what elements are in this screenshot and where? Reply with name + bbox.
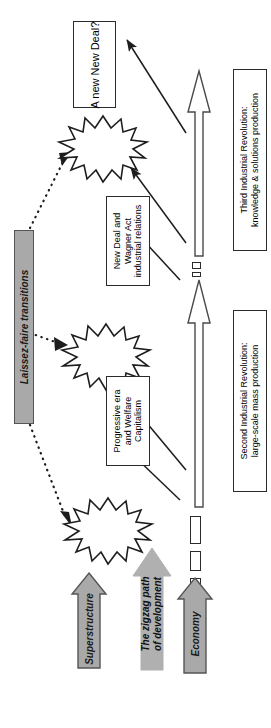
- burst-top-icon: [57, 110, 149, 188]
- hollow-arrow-upper-icon: [186, 68, 212, 258]
- shape-economy-label: Economy: [190, 611, 201, 656]
- box-new-deal-wagner-act-label: New Deal and Wagner Act industrial relat…: [112, 205, 144, 278]
- line-1: Second Industrial Revolution:: [239, 342, 249, 459]
- line-3: Capitalism: [133, 400, 143, 442]
- line-3: industrial relations: [133, 205, 143, 278]
- line-2: Wagner Act: [123, 218, 133, 264]
- dash-square-lower-2: [190, 551, 201, 571]
- line-2: knowledge & solutions production: [250, 93, 260, 227]
- hollow-arrow-lower-icon: [186, 277, 212, 509]
- bar-laissez-faire-transitions-label: Laissez-faire transitions: [19, 270, 30, 384]
- line-1: New Deal and: [112, 213, 122, 270]
- line-1: Progressive era: [112, 389, 122, 452]
- shape-superstructure-label: Superstructure: [84, 593, 95, 665]
- line-1: Third Industrial Revolution:: [239, 106, 249, 213]
- box-new-deal-wagner-act[interactable]: New Deal and Wagner Act industrial relat…: [106, 196, 150, 286]
- diagram-canvas: A new New Deal? New Deal and Wagner Act …: [0, 0, 271, 728]
- box-third-industrial-revolution-label: Third Industrial Revolution: knowledge &…: [239, 93, 260, 227]
- line-1: The zigzag path: [140, 577, 151, 652]
- shape-superstructure[interactable]: Superstructure: [70, 571, 108, 671]
- dash-square-upper-2: [192, 272, 201, 277]
- shape-economy[interactable]: Economy: [176, 576, 214, 676]
- box-second-industrial-revolution[interactable]: Second Industrial Revolution: large-scal…: [233, 310, 267, 492]
- box-second-industrial-revolution-label: Second Industrial Revolution: large-scal…: [239, 342, 260, 459]
- dash-square-upper-1: [192, 262, 201, 269]
- bar-laissez-faire-transitions[interactable]: Laissez-faire transitions: [14, 230, 34, 424]
- box-a-new-new-deal-label: A new New Deal?: [88, 21, 101, 108]
- line-2: and Welfare: [123, 397, 133, 445]
- box-third-industrial-revolution[interactable]: Third Industrial Revolution: knowledge &…: [233, 69, 267, 251]
- box-a-new-new-deal[interactable]: A new New Deal?: [73, 21, 116, 108]
- shape-zigzag-path[interactable]: The zigzag path of development: [131, 546, 173, 672]
- line-2: of development: [152, 577, 163, 651]
- box-progressive-era-label: Progressive era and Welfare Capitalism: [112, 389, 144, 452]
- line-2: large-scale mass production: [250, 345, 260, 458]
- shape-zigzag-path-label: The zigzag path of development: [140, 577, 164, 652]
- box-progressive-era[interactable]: Progressive era and Welfare Capitalism: [106, 376, 150, 466]
- dash-square-lower-1: [190, 516, 201, 544]
